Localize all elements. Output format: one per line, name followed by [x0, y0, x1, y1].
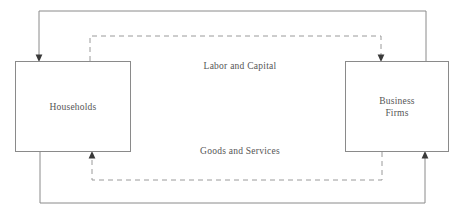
arrowhead-up-into-business-firms [422, 151, 429, 159]
circular-flow-diagram: Households Business Firms Labor and Capi… [0, 0, 464, 217]
node-business-firms-label: Business Firms [379, 95, 414, 119]
node-households-label: Households [50, 101, 97, 113]
connector-payment-to-business-firms [40, 151, 428, 203]
solid-top-path [39, 11, 426, 61]
solid-bottom-path [40, 152, 425, 203]
arrowhead-up-into-households [89, 151, 96, 159]
connector-labor-and-capital [90, 36, 384, 62]
flow-label-goods-and-services: Goods and Services [150, 146, 330, 156]
node-business-firms[interactable]: Business Firms [345, 61, 449, 152]
flow-label-labor-and-capital: Labor and Capital [150, 61, 330, 71]
dashed-top-path [90, 36, 381, 61]
node-households[interactable]: Households [15, 61, 131, 152]
dashed-bottom-path [92, 152, 382, 180]
